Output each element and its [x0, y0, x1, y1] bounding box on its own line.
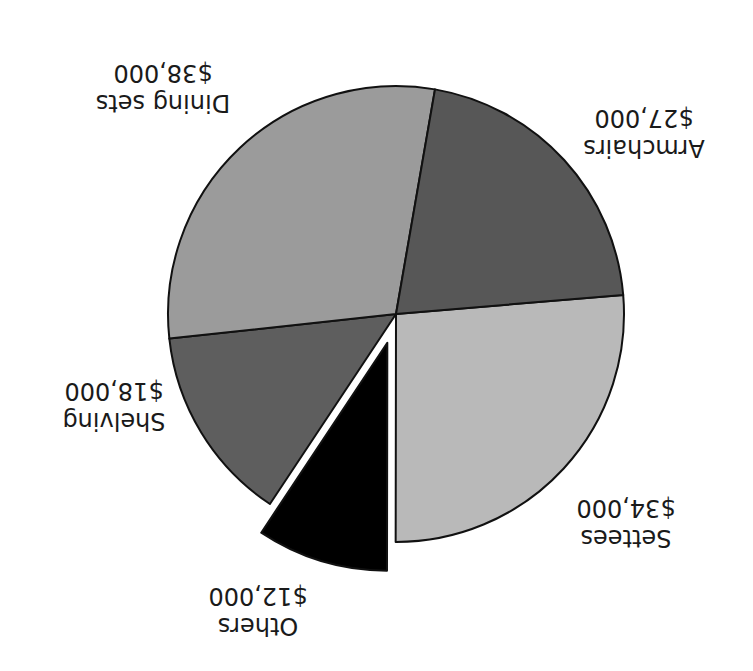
label-dining-value: $38,000	[113, 59, 212, 87]
label-settees: Settees $34,000	[576, 494, 675, 552]
label-dining-name: Dining sets	[96, 89, 230, 117]
pie-slices	[168, 86, 624, 571]
label-shelving: Shelving $18,000	[62, 377, 165, 435]
label-others: Others $12,000	[208, 582, 307, 640]
pie-slice-dining-sets	[168, 86, 435, 339]
label-others-name: Others	[218, 612, 299, 640]
pie-chart: Settees $34,000 Others $12,000 Shelving …	[0, 0, 753, 671]
label-armchairs: Armchairs $27,000	[583, 104, 704, 162]
label-settees-name: Settees	[581, 524, 672, 552]
pie-slice-armchairs	[396, 89, 623, 314]
label-shelving-name: Shelving	[62, 407, 165, 435]
label-armchairs-name: Armchairs	[583, 134, 704, 162]
label-others-value: $12,000	[208, 582, 307, 610]
label-shelving-value: $18,000	[64, 377, 163, 405]
label-dining: Dining sets $38,000	[96, 59, 230, 117]
label-armchairs-value: $27,000	[594, 104, 693, 132]
label-settees-value: $34,000	[576, 494, 675, 522]
